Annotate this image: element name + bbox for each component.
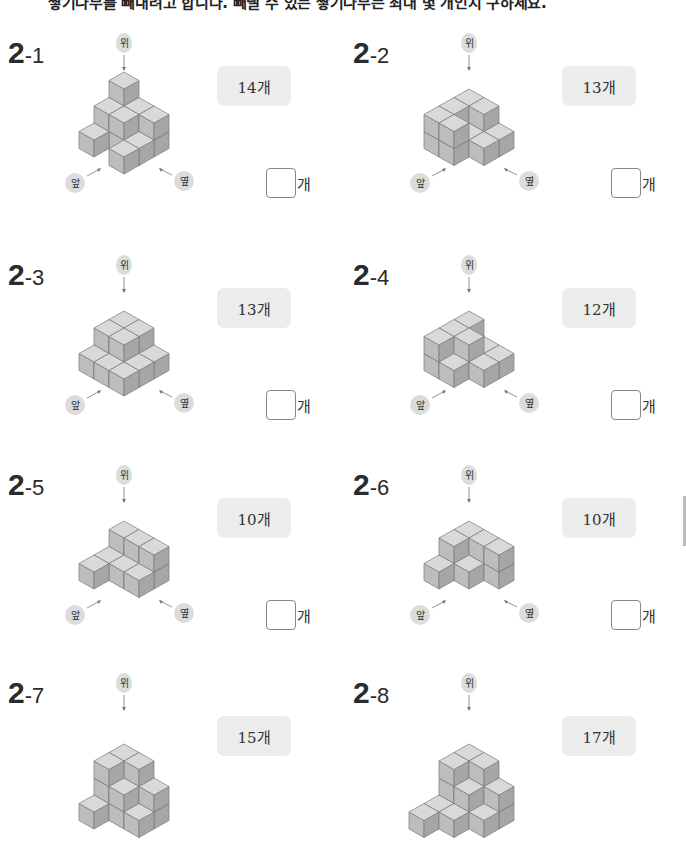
answer-unit: 개 xyxy=(297,395,311,416)
svg-text:위: 위 xyxy=(465,677,474,689)
svg-text:앞: 앞 xyxy=(71,610,80,621)
label-front: 앞 xyxy=(410,168,446,193)
svg-text:옆: 옆 xyxy=(525,176,534,187)
svg-text:앞: 앞 xyxy=(416,610,425,621)
cube-group xyxy=(79,311,169,396)
answer-input-box[interactable] xyxy=(266,168,296,198)
svg-text:앞: 앞 xyxy=(71,400,80,411)
problem-2-4: 2-4위앞옆12개개 xyxy=(345,250,685,460)
stacked-cubes-figure: 위앞옆 xyxy=(0,460,240,670)
answer-field: 개 xyxy=(611,600,656,630)
answer-input-box[interactable] xyxy=(266,390,296,420)
svg-text:위: 위 xyxy=(465,469,474,481)
label-side: 옆 xyxy=(159,168,194,191)
answer-unit: 개 xyxy=(642,605,656,626)
cube-group xyxy=(424,311,514,388)
svg-text:옆: 옆 xyxy=(180,608,189,619)
answer-input-box[interactable] xyxy=(611,390,641,420)
label-front: 앞 xyxy=(65,390,101,415)
cube-group xyxy=(424,89,514,166)
label-front: 앞 xyxy=(410,390,446,415)
label-side: 옆 xyxy=(504,168,539,191)
given-count-badge: 12개 xyxy=(562,288,636,328)
problem-2-6: 2-6위앞옆10개개 xyxy=(345,460,685,670)
given-count-badge: 13개 xyxy=(562,66,636,106)
label-top: 위 xyxy=(116,255,132,293)
problem-2-3: 2-3위앞옆13개개 xyxy=(0,250,340,460)
stacked-cubes-figure: 위앞옆 xyxy=(345,28,585,238)
answer-input-box[interactable] xyxy=(266,600,296,630)
stacked-cubes-figure: 위앞옆 xyxy=(345,460,585,670)
label-side: 옆 xyxy=(504,600,539,623)
problem-2-7: 2-7위15개 xyxy=(0,668,340,842)
svg-text:옆: 옆 xyxy=(180,176,189,187)
cube-group xyxy=(79,521,169,598)
answer-unit: 개 xyxy=(642,395,656,416)
svg-text:위: 위 xyxy=(120,677,129,689)
given-count-badge: 17개 xyxy=(562,716,636,756)
answer-input-box[interactable] xyxy=(611,600,641,630)
label-top: 위 xyxy=(116,673,132,711)
label-front: 앞 xyxy=(65,168,101,193)
cube-group xyxy=(79,72,169,174)
stacked-cubes-figure: 위 xyxy=(345,668,585,842)
stacked-cubes-figure: 위 xyxy=(0,668,240,842)
problem-2-2: 2-2위앞옆13개개 xyxy=(345,28,685,238)
svg-text:옆: 옆 xyxy=(180,398,189,409)
label-front: 앞 xyxy=(65,600,101,625)
label-top: 위 xyxy=(116,465,132,503)
problem-2-8: 2-8위17개 xyxy=(345,668,685,842)
answer-field: 개 xyxy=(611,390,656,420)
svg-text:옆: 옆 xyxy=(525,608,534,619)
label-front: 앞 xyxy=(410,600,446,625)
label-top: 위 xyxy=(116,33,132,71)
svg-text:앞: 앞 xyxy=(71,178,80,189)
label-top: 위 xyxy=(461,465,477,503)
svg-text:위: 위 xyxy=(465,259,474,271)
answer-field: 개 xyxy=(266,390,311,420)
label-side: 옆 xyxy=(159,390,194,413)
stacked-cubes-figure: 위앞옆 xyxy=(345,250,585,460)
given-count-badge: 14개 xyxy=(217,66,291,106)
cube-group xyxy=(409,744,514,838)
answer-field: 개 xyxy=(266,168,311,198)
answer-field: 개 xyxy=(266,600,311,630)
cube-group xyxy=(424,521,514,589)
svg-text:옆: 옆 xyxy=(525,398,534,409)
answer-unit: 개 xyxy=(642,173,656,194)
svg-text:위: 위 xyxy=(120,259,129,271)
answer-unit: 개 xyxy=(297,605,311,626)
stacked-cubes-figure: 위앞옆 xyxy=(0,250,240,460)
svg-text:위: 위 xyxy=(120,469,129,481)
label-side: 옆 xyxy=(504,390,539,413)
problem-2-5: 2-5위앞옆10개개 xyxy=(0,460,340,670)
given-count-badge: 15개 xyxy=(217,716,291,756)
stacked-cubes-figure: 위앞옆 xyxy=(0,28,240,238)
instruction-text: 쌓기나무를 빼내려고 합니다. 빼낼 수 있는 쌓기나무는 최대 몇 개인지 구… xyxy=(48,0,546,12)
answer-unit: 개 xyxy=(297,173,311,194)
problem-2-1: 2-1위앞옆14개개 xyxy=(0,28,340,238)
label-side: 옆 xyxy=(159,600,194,623)
label-top: 위 xyxy=(461,33,477,71)
answer-input-box[interactable] xyxy=(611,168,641,198)
answer-field: 개 xyxy=(611,168,656,198)
given-count-badge: 13개 xyxy=(217,288,291,328)
given-count-badge: 10개 xyxy=(562,498,636,538)
label-top: 위 xyxy=(461,255,477,293)
svg-text:위: 위 xyxy=(120,37,129,49)
svg-text:위: 위 xyxy=(465,37,474,49)
svg-text:앞: 앞 xyxy=(416,178,425,189)
svg-text:앞: 앞 xyxy=(416,400,425,411)
given-count-badge: 10개 xyxy=(217,498,291,538)
label-top: 위 xyxy=(461,673,477,711)
cube-group xyxy=(79,744,169,838)
